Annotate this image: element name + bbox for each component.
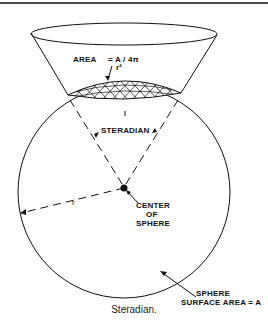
area-label: AREA: [73, 55, 96, 64]
cone-top-ellipse: [31, 23, 217, 45]
sphere-outline: [18, 86, 230, 298]
area-formula: = A / 4π: [108, 55, 139, 64]
cone-right-side: [181, 35, 217, 93]
surface-label-1: SPHERE: [196, 289, 230, 298]
center-label-1: CENTER: [136, 201, 170, 210]
steradian-diagram: [0, 0, 268, 333]
center-label-2: OF: [146, 210, 158, 219]
shaded-cap-area: [60, 75, 185, 102]
steradian-label: STERADIAN: [101, 126, 149, 135]
surface-arrow: [164, 274, 196, 297]
radius-label: r: [72, 198, 75, 207]
area-r2: r²: [116, 63, 122, 72]
center-label-3: SPHERE: [136, 219, 170, 228]
figure-caption: Steradian.: [0, 304, 268, 315]
steradian-figure: AREA = A / 4π r² STERADIAN r CENTER OF S…: [0, 0, 268, 333]
steradian-right-dashed: [124, 100, 178, 187]
steradian-left-dashed: [70, 100, 124, 187]
